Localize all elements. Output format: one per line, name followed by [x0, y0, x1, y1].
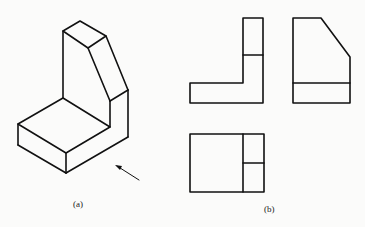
- side-view: [293, 18, 350, 103]
- drawing-canvas: [0, 0, 365, 227]
- isometric-view: [18, 21, 128, 173]
- figure-label-a: (a): [73, 199, 83, 209]
- figure-label-b: (b): [264, 204, 275, 214]
- front-view: [190, 18, 263, 103]
- viewing-direction-arrow: [115, 165, 139, 180]
- top-view: [190, 134, 264, 192]
